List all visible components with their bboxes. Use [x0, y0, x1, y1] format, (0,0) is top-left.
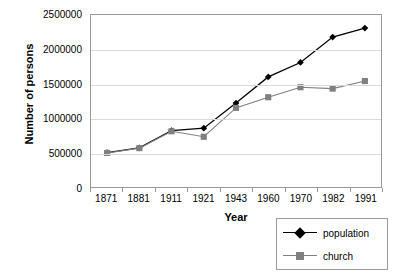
x-tick-mark	[187, 188, 188, 192]
legend-key-church	[283, 249, 317, 263]
x-tick-mark	[252, 188, 253, 192]
x-tick-label: 1943	[225, 193, 247, 204]
x-tick-mark	[285, 188, 286, 192]
y-tick-label: 2500000	[43, 9, 82, 20]
square-marker-icon	[296, 252, 304, 260]
plot-area	[90, 14, 382, 188]
legend-item-church: church	[277, 245, 387, 267]
gridline	[91, 85, 381, 86]
x-tick-label: 1991	[355, 193, 377, 204]
y-tick-label: 1000000	[43, 113, 82, 124]
x-tick-label: 1970	[290, 193, 312, 204]
y-axis-tick-labels: 05000001000000150000020000002500000	[20, 14, 86, 188]
x-tick-mark	[122, 188, 123, 192]
chart-screenshot: Number of persons 0500000100000015000002…	[0, 0, 406, 279]
legend-item-population: population	[277, 222, 387, 244]
legend-key-population	[283, 226, 317, 240]
data-point-church	[330, 86, 336, 92]
gridline	[91, 154, 381, 155]
data-point-population	[362, 25, 369, 32]
x-axis-tick-labels: 187118811911192119431960197019821991	[90, 193, 382, 207]
series-line-population	[107, 28, 365, 153]
legend-label-population: population	[323, 228, 369, 239]
data-point-church	[362, 78, 368, 84]
x-tick-label: 1871	[95, 193, 117, 204]
y-tick-label: 2000000	[43, 43, 82, 54]
data-point-church	[233, 105, 239, 111]
gridline	[91, 50, 381, 51]
x-tick-mark	[382, 188, 383, 192]
x-tick-label: 1982	[322, 193, 344, 204]
data-point-church	[168, 128, 174, 134]
x-tick-label: 1921	[192, 193, 214, 204]
x-tick-mark	[317, 188, 318, 192]
x-tick-label: 1960	[257, 193, 279, 204]
data-point-church	[136, 145, 142, 151]
x-tick-mark	[220, 188, 221, 192]
data-point-church	[201, 134, 207, 140]
data-point-church	[265, 94, 271, 100]
x-tick-mark	[350, 188, 351, 192]
y-tick-label: 1500000	[43, 78, 82, 89]
x-tick-mark	[155, 188, 156, 192]
x-tick-mark	[90, 188, 91, 192]
legend-label-church: church	[323, 251, 353, 262]
gridline	[91, 119, 381, 120]
y-tick-label: 500000	[49, 148, 82, 159]
x-tick-label: 1911	[160, 193, 182, 204]
data-point-church	[104, 150, 110, 156]
diamond-marker-icon	[294, 227, 305, 238]
x-tick-label: 1881	[128, 193, 150, 204]
plot-svg	[91, 15, 381, 187]
chart-legend: population church	[276, 218, 388, 270]
series-line-church	[107, 81, 365, 153]
y-tick-label: 0	[76, 183, 82, 194]
